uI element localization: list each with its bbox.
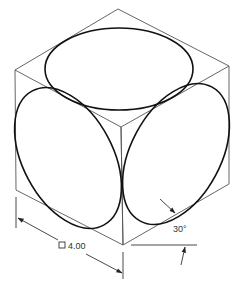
dimension-line-right [86,254,122,273]
isometric-circles [0,28,237,246]
size-dimension: 4.00 [16,197,123,279]
top-face-ellipse [45,28,193,110]
cube-left-face [15,70,123,245]
angle-label: 30° [173,224,187,234]
angle-dimension: 30° [131,199,197,265]
angle-arrow-lower [181,247,185,265]
square-symbol-icon [59,242,65,248]
isometric-cube-diagram: 4.00 30° [0,0,237,288]
size-label: 4.00 [68,241,86,251]
dimension-line-left [18,218,58,240]
cube-edges [15,9,229,245]
angle-arrow-upper [160,199,175,213]
